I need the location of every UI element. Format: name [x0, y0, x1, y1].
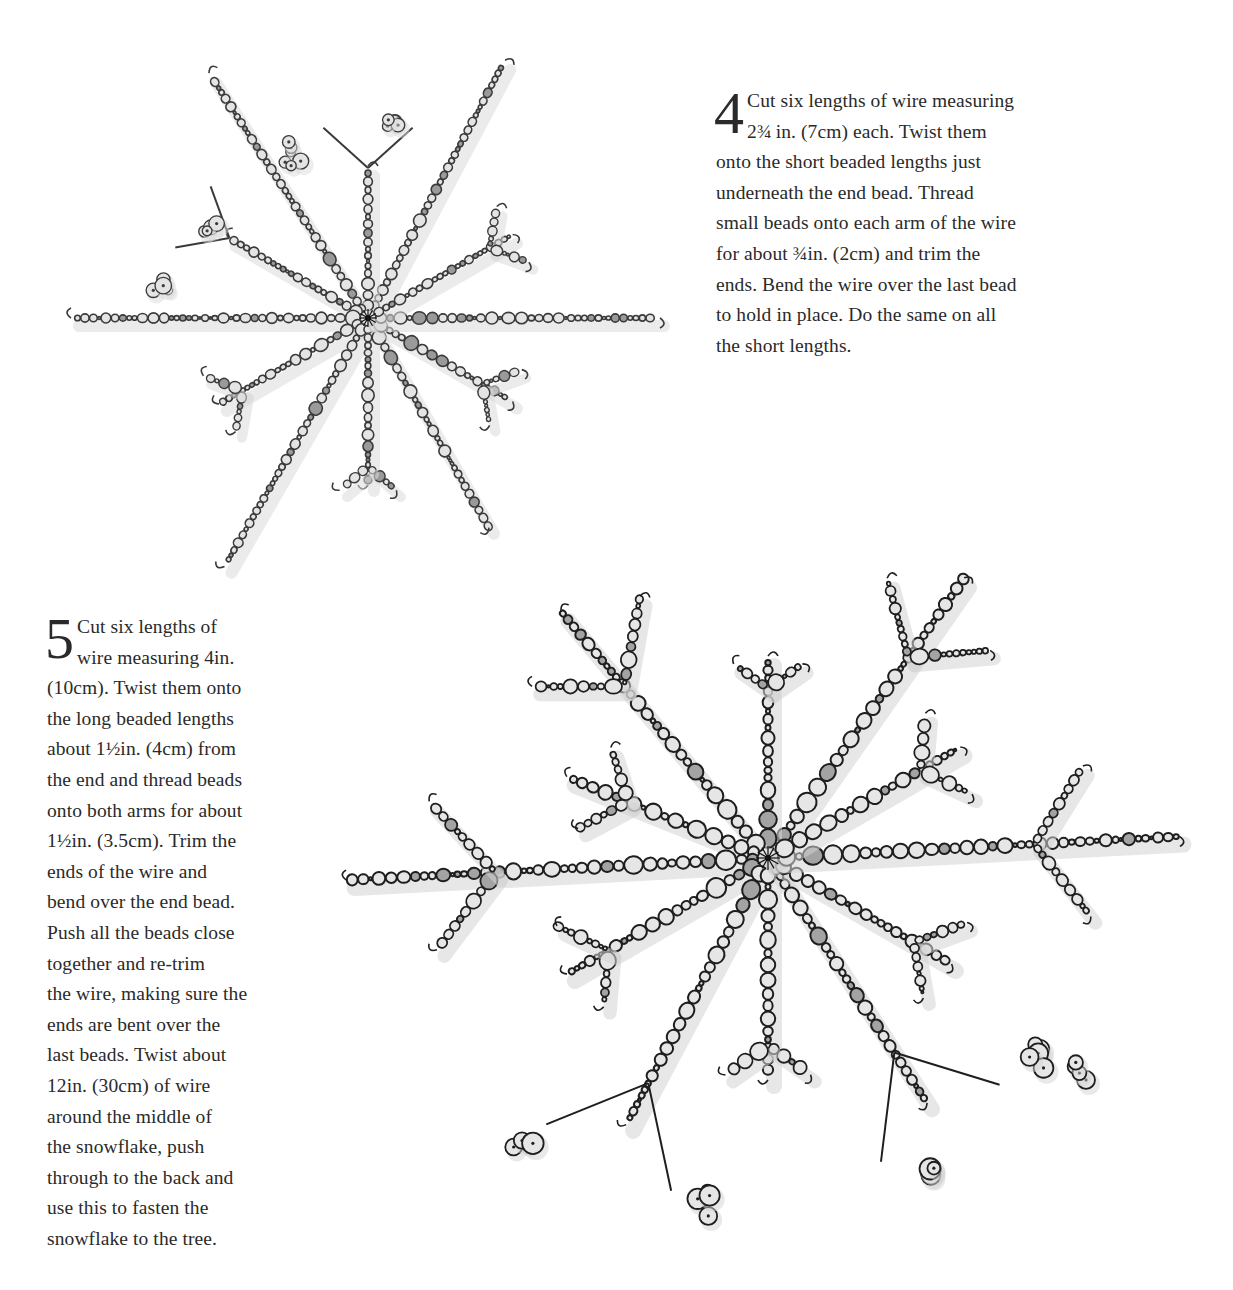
bare-wire — [648, 1083, 671, 1191]
bead — [976, 648, 982, 654]
bead — [759, 890, 777, 909]
bead-hole — [708, 1194, 711, 1197]
bead — [974, 839, 989, 854]
bead — [953, 650, 960, 657]
bead — [601, 988, 610, 997]
bead — [547, 685, 550, 687]
bead — [363, 377, 373, 388]
bead — [715, 850, 736, 870]
bead — [603, 970, 609, 977]
step-line: 1½in. (3.5cm). Trim the — [47, 826, 322, 857]
bead — [1017, 841, 1025, 848]
bead — [628, 618, 641, 631]
bead — [233, 315, 240, 321]
bead-hole — [531, 1142, 534, 1145]
bead — [872, 848, 881, 857]
bead — [668, 859, 676, 866]
bead — [259, 315, 266, 322]
bead — [1163, 833, 1173, 842]
bead — [760, 931, 776, 949]
bead — [595, 315, 602, 321]
bead — [761, 958, 775, 973]
bead — [429, 872, 436, 880]
bead — [761, 782, 776, 799]
step-line: ends of the wire and — [47, 857, 322, 888]
bead — [560, 865, 568, 872]
bead — [186, 316, 191, 320]
bead — [232, 421, 240, 430]
step-line: small beads onto each arm of the wire — [716, 208, 1116, 239]
bead — [766, 884, 771, 889]
bead — [127, 316, 132, 320]
bead — [553, 313, 564, 323]
bead — [1153, 832, 1164, 843]
bead — [590, 683, 598, 690]
bead — [764, 774, 771, 781]
bead — [914, 744, 931, 760]
bead — [486, 413, 490, 417]
bead — [364, 229, 372, 238]
bead — [1075, 837, 1085, 846]
bead — [763, 1027, 773, 1036]
bead — [284, 313, 294, 322]
bead — [953, 748, 956, 751]
bead — [765, 660, 770, 665]
bead — [90, 314, 98, 322]
step-line: underneath the end bead. Thread — [716, 178, 1116, 209]
bead — [763, 988, 773, 1000]
wire-hook — [768, 652, 778, 656]
step-line: Push all the beads close — [47, 918, 322, 949]
wire-hook — [560, 965, 567, 974]
center-knot — [765, 855, 771, 861]
step-line: use this to fasten the — [47, 1193, 322, 1224]
step-line: about 1½in. (4cm) from — [47, 734, 322, 765]
bead — [1099, 834, 1112, 847]
bead — [1069, 839, 1075, 845]
bead-shadow — [774, 587, 969, 866]
bead — [601, 861, 614, 873]
bead — [610, 751, 618, 759]
bead-hole — [1074, 1061, 1077, 1064]
bead — [483, 399, 487, 404]
bead — [365, 170, 371, 176]
bead — [568, 315, 575, 322]
bead-hole — [1042, 1066, 1045, 1069]
bead — [278, 315, 283, 320]
bead — [1142, 835, 1150, 842]
bead — [764, 923, 772, 931]
bead — [941, 652, 946, 657]
bead — [454, 871, 460, 877]
bead — [365, 357, 370, 362]
bead — [237, 403, 243, 410]
wire-hook — [201, 366, 207, 375]
bead — [602, 317, 605, 320]
step-line: ends are bent over the — [47, 1010, 322, 1041]
bead — [627, 1114, 634, 1121]
bead — [365, 269, 372, 277]
step-line: together and re-trim — [47, 949, 322, 980]
bead-hole — [696, 1197, 699, 1200]
bead — [982, 648, 988, 654]
bead — [365, 342, 371, 348]
bead — [759, 811, 777, 829]
wire-hook — [67, 308, 71, 318]
bead — [966, 650, 971, 655]
wire-hook — [718, 1067, 725, 1075]
bead — [488, 241, 493, 246]
step-line: for about ¾in. (2cm) and trim the — [716, 239, 1116, 270]
small-snowflake-illustration — [67, 59, 664, 573]
bead — [507, 235, 511, 239]
large-snowflake-illustration — [342, 572, 1183, 1231]
bead — [761, 909, 774, 922]
bare-wire — [881, 1053, 894, 1162]
bead — [365, 263, 371, 269]
bead — [919, 986, 924, 991]
wire-hook — [528, 676, 532, 686]
bead — [939, 843, 950, 854]
bead — [385, 872, 397, 883]
bead — [961, 788, 967, 794]
step-line: snowflake to the tree. — [47, 1224, 322, 1255]
bead — [535, 315, 543, 322]
step-line: ends. Bend the wire over the last bead — [716, 270, 1116, 301]
step-line: bend over the end bead. — [47, 887, 322, 918]
